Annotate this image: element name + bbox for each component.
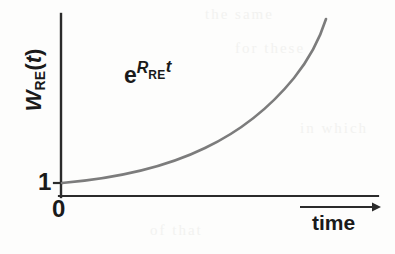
y-axis-title-paren-close: ) — [21, 49, 46, 56]
x-axis-title: time — [312, 212, 355, 233]
annotation-base: e — [124, 62, 137, 88]
annotation-exponent-variable: t — [166, 57, 172, 76]
y-axis-title-paren-open: ( — [21, 63, 46, 70]
curve-annotation: eRREt — [124, 58, 171, 87]
annotation-exponent: R — [137, 59, 149, 76]
origin-label: 0 — [52, 197, 65, 221]
exponential-curve — [62, 19, 326, 183]
y-tick-label-1: 1 — [38, 170, 51, 194]
y-axis-title: WRE(t) — [23, 32, 47, 128]
y-axis-title-main: W — [21, 91, 46, 112]
y-axis-title-variable: t — [21, 56, 46, 63]
annotation-exponent-subscript: RE — [148, 68, 165, 82]
y-axis-title-subscript: RE — [32, 71, 48, 91]
figure-container: the same for these of that in which WRE(… — [0, 0, 395, 254]
